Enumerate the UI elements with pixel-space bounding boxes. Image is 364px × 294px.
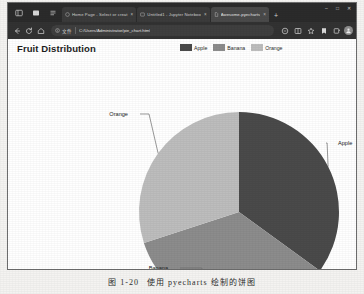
home-icon[interactable] [35,25,47,37]
tab-title: Untitled1 - Jupyter Noteboo [147,12,201,17]
close-window-button[interactable]: ✕ [343,3,354,13]
tab-search-icon[interactable] [46,6,59,19]
leader-line-orange [140,114,158,153]
pie-label-apple: Apple [338,140,352,146]
tab-title: Awesome-pyecharts [221,12,261,17]
pie-label-orange: Orange [109,111,128,117]
toolbar-icon-group [278,25,353,37]
globe-icon [65,12,70,17]
pie-slices [139,112,339,270]
pie-chart-svg: Apple Banana Orange [8,59,356,270]
chart-header: Fruit Distribution Apple Banana Orange [8,39,356,59]
figure-caption-text: 使用 pyecharts 绘制的饼图 [147,278,256,287]
address-separator [75,27,76,34]
minimize-button[interactable]: – [321,3,332,13]
tab-vertical-icon[interactable] [29,6,42,19]
pie-chart-plot: Apple Banana Orange [8,59,356,270]
browser-tab-home-page[interactable]: Home Page - Select or creat × [62,7,136,22]
tab-strip: Home Page - Select or creat × Untitled1 … [8,3,356,22]
legend-item-banana[interactable]: Banana [213,44,245,51]
reading-mode-icon[interactable] [278,25,291,37]
legend-label-apple: Apple [194,45,207,51]
pie-label-banana: Banana [149,265,169,270]
window-controls: – □ ✕ [321,3,356,22]
tab-title: Home Page - Select or creat [72,12,128,17]
legend-swatch-orange [251,44,263,51]
browser-toolbar: 文件 C:/Users/Administrator/pie_chart.html [8,22,356,39]
page-title: Fruit Distribution [17,43,96,54]
new-tab-button[interactable]: + [270,12,282,19]
legend-label-banana: Banana [227,45,245,51]
info-circle-icon[interactable] [55,28,60,33]
tab-close-icon[interactable]: × [131,12,134,17]
split-screen-icon[interactable] [291,25,304,37]
chart-legend: Apple Banana Orange [180,44,282,51]
tab-list: Home Page - Select or creat × Untitled1 … [62,3,321,22]
maximize-button[interactable]: □ [332,3,343,13]
collections-icon[interactable] [317,25,330,37]
legend-item-apple[interactable]: Apple [180,44,207,51]
back-button[interactable] [11,25,23,37]
legend-swatch-banana [213,44,225,51]
browser-tab-awesome-pyecharts[interactable]: Awesome-pyecharts × [211,7,269,22]
browser-essentials-icon[interactable] [330,25,343,37]
page-content: Fruit Distribution Apple Banana Orange [8,39,356,270]
figure-caption: 图 1-20 使用 pyecharts 绘制的饼图 [0,276,364,287]
address-bar[interactable]: 文件 C:/Users/Administrator/pie_chart.html [51,25,274,36]
favorite-star-icon[interactable] [304,25,317,37]
legend-label-orange: Orange [265,45,282,51]
tab-actions-icon[interactable] [12,6,25,19]
jupyter-icon [140,12,145,17]
legend-swatch-apple [180,44,192,51]
leader-line-apple [326,143,328,167]
refresh-button[interactable] [23,25,35,37]
address-scheme-label: 文件 [62,28,72,34]
avatar[interactable] [344,26,353,35]
figure-number: 图 1-20 [108,278,139,287]
tab-close-icon[interactable]: × [204,12,207,17]
tab-close-icon[interactable]: × [263,12,266,17]
address-url-text: C:/Users/Administrator/pie_chart.html [79,28,150,33]
legend-item-orange[interactable]: Orange [251,44,282,51]
browser-window: Home Page - Select or creat × Untitled1 … [7,2,357,270]
file-icon [214,12,219,17]
browser-tab-jupyter-notebook[interactable]: Untitled1 - Jupyter Noteboo × [137,7,209,22]
